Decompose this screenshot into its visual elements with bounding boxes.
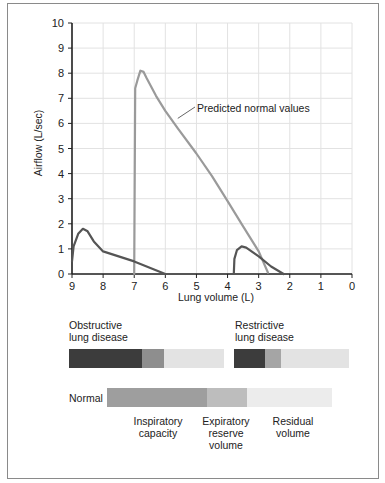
caption-residual-volume: Residual volume [263,415,323,439]
y-tick-label: 2 [58,218,64,230]
y-tick-label: 7 [58,92,64,104]
x-tick-label: 9 [69,280,75,292]
restrictive-label: Restrictive lung disease [235,319,294,343]
annotation-predicted-normal: Predicted normal values [197,102,310,114]
segment-residual-volume [247,388,332,407]
y-axis-label: Airflow (L/sec) [32,93,44,193]
x-tick-label: 0 [349,280,355,292]
segment-expiratory-reserve-volume [265,349,281,368]
y-tick-label: 10 [52,17,64,29]
segment-residual-volume [164,349,224,368]
x-axis-label: Lung volume (L) [178,291,254,303]
annotation-leader-line [178,107,195,118]
y-tick-label: 8 [58,67,64,79]
y-tick-label: 0 [58,268,64,280]
normal-label: Normal [69,392,103,404]
y-tick-label: 6 [58,117,64,129]
segment-expiratory-reserve-volume [142,349,164,368]
segment-expiratory-reserve-volume [207,388,247,407]
x-tick-label: 2 [287,280,293,292]
obstructive-label: Obstructive lung disease [69,319,128,343]
x-tick-label: 8 [100,280,106,292]
caption-inspiratory-capacity: Inspiratory capacity [123,415,193,439]
restrictive-volume-bar [234,349,349,368]
segment-inspiratory-capacity [69,349,142,368]
y-tick-label: 3 [58,193,64,205]
segment-inspiratory-capacity [234,349,265,368]
x-tick-label: 3 [256,280,262,292]
flow-volume-chart: 9876543210012345678910 [0,0,385,310]
caption-expiratory-reserve-volume: Expiratory reserve volume [196,415,256,451]
x-tick-label: 1 [318,280,324,292]
y-tick-label: 4 [58,168,64,180]
segment-residual-volume [281,349,349,368]
x-tick-label: 7 [131,280,137,292]
normal-volume-bar [107,388,332,407]
x-tick-label: 6 [162,280,168,292]
y-tick-label: 9 [58,42,64,54]
series-obstructive-lung-disease [72,229,165,274]
obstructive-volume-bar [69,349,224,368]
y-tick-label: 5 [58,143,64,155]
segment-inspiratory-capacity [107,388,207,407]
y-tick-label: 1 [58,243,64,255]
